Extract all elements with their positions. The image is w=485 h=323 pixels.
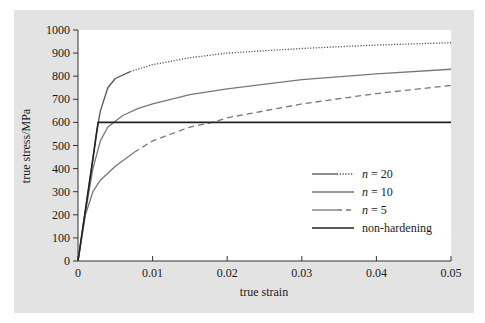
y-tick-label: 0 bbox=[64, 254, 70, 268]
x-tick-label: 0.02 bbox=[217, 266, 238, 280]
y-tick-label: 100 bbox=[52, 231, 70, 245]
y-tick-label: 500 bbox=[52, 139, 70, 153]
x-tick-label: 0.05 bbox=[441, 266, 462, 280]
x-axis-label: true strain bbox=[240, 285, 288, 299]
y-tick-label: 200 bbox=[52, 208, 70, 222]
y-tick-label: 800 bbox=[52, 69, 70, 83]
y-axis-label: true stress/MPa bbox=[19, 108, 33, 183]
legend-label: n = 5 bbox=[362, 203, 387, 217]
y-tick-label: 400 bbox=[52, 162, 70, 176]
stress-strain-chart: 0100200300400500600700800900100000.010.0… bbox=[0, 0, 485, 323]
y-tick-label: 700 bbox=[52, 92, 70, 106]
y-tick-label: 300 bbox=[52, 185, 70, 199]
legend-label: non-hardening bbox=[362, 221, 432, 235]
x-tick-label: 0.01 bbox=[142, 266, 163, 280]
x-tick-label: 0.03 bbox=[291, 266, 312, 280]
x-tick-label: 0 bbox=[75, 266, 81, 280]
y-tick-label: 600 bbox=[52, 115, 70, 129]
x-tick-label: 0.04 bbox=[366, 266, 387, 280]
y-tick-label: 1000 bbox=[46, 23, 70, 37]
legend-label: n = 10 bbox=[362, 185, 393, 199]
y-tick-label: 900 bbox=[52, 46, 70, 60]
legend-label: n = 20 bbox=[362, 167, 393, 181]
